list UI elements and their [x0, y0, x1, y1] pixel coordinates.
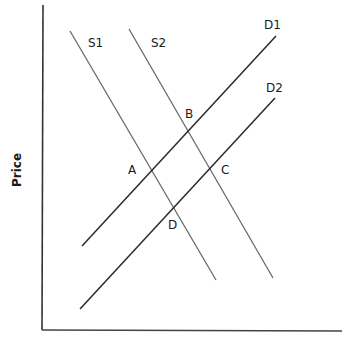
s2-label: S2 [151, 36, 166, 50]
s1-label: S1 [88, 36, 103, 50]
point-a-label: A [128, 163, 137, 177]
y-axis-label: Price [10, 153, 24, 187]
supply-curve-s1 [70, 31, 216, 280]
demand-curve-d2 [80, 98, 275, 309]
supply-curve-s2 [129, 29, 273, 278]
point-b-label: B [185, 107, 193, 121]
supply-demand-diagram: Price S1 S2 D1 D2 A B C D [0, 0, 342, 352]
d1-label: D1 [264, 18, 281, 32]
point-d-label: D [168, 218, 177, 232]
demand-curve-d1 [82, 36, 276, 246]
y-axis [42, 5, 43, 330]
x-axis [42, 330, 342, 331]
point-c-label: C [221, 163, 229, 177]
d2-label: D2 [266, 81, 283, 95]
